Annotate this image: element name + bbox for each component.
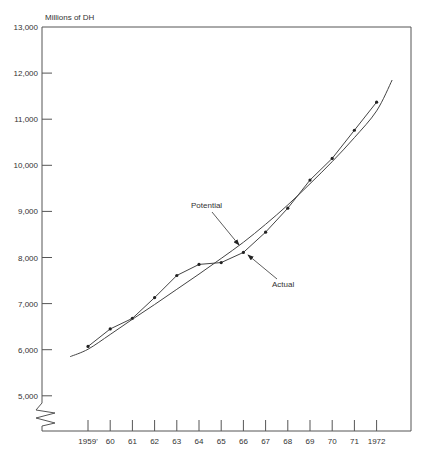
annotations: PotentialActual (191, 201, 294, 289)
actual-arrow (248, 255, 277, 279)
y-tick-label: 5,000 (18, 392, 39, 401)
actual-label: Actual (272, 280, 294, 289)
x-tick-label: 1959' (78, 437, 98, 446)
data-point-actual (175, 274, 178, 277)
data-point-actual (109, 327, 112, 330)
data-point-actual (264, 231, 267, 234)
y-tick-label: 13,000 (14, 23, 39, 32)
y-tick-label: 12,000 (14, 69, 39, 78)
data-point-actual (308, 178, 311, 181)
potential-label: Potential (191, 201, 222, 210)
data-point-actual (220, 261, 223, 264)
x-tick-label: 61 (128, 437, 137, 446)
y-tick-label: 7,000 (18, 300, 39, 309)
y-ticks: 5,0006,0007,0008,0009,00010,00011,00012,… (14, 23, 52, 401)
chart: Millions of DH 5,0006,0007,0008,0009,000… (0, 0, 424, 455)
axes (36, 27, 411, 431)
y-tick-label: 11,000 (14, 115, 38, 124)
x-tick-label: 67 (261, 437, 270, 446)
data-point-actual (331, 157, 334, 160)
x-tick-label: 62 (150, 437, 159, 446)
x-ticks: 1959'6061626364656667686970711972 (78, 420, 386, 446)
x-tick-label: 64 (195, 437, 204, 446)
x-tick-label: 65 (217, 437, 226, 446)
y-tick-label: 9,000 (18, 207, 39, 216)
y-tick-label: 8,000 (18, 254, 39, 263)
axis-break-zigzag (36, 400, 55, 431)
x-tick-label: 69 (306, 437, 315, 446)
data-point-actual (353, 129, 356, 132)
x-tick-label: 68 (283, 437, 292, 446)
potential-arrow (212, 212, 239, 245)
x-tick-label: 60 (106, 437, 115, 446)
x-tick-label: 70 (328, 437, 337, 446)
y-tick-label: 6,000 (18, 346, 39, 355)
data-point-actual (242, 251, 245, 254)
data-point-actual (153, 296, 156, 299)
data-point-actual (86, 345, 89, 348)
series (70, 80, 392, 357)
x-tick-label: 63 (172, 437, 181, 446)
series-line-actual (88, 102, 377, 346)
y-axis-unit-label: Millions of DH (45, 13, 95, 22)
data-point-actual (375, 101, 378, 104)
data-point-actual (286, 207, 289, 210)
x-tick-label: 66 (239, 437, 248, 446)
data-point-actual (197, 263, 200, 266)
x-tick-label: 71 (350, 437, 359, 446)
y-tick-label: 10,000 (14, 161, 39, 170)
series-line-potential (70, 80, 392, 357)
x-tick-label: 1972 (368, 437, 386, 446)
